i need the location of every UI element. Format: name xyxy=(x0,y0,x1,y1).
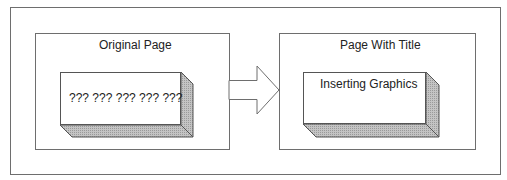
original-page-title: Original Page xyxy=(99,38,172,52)
page-with-title-title: Page With Title xyxy=(340,38,421,52)
original-page-block-text: ??? ??? ??? ??? ??? xyxy=(69,91,182,105)
diagram-canvas xyxy=(0,0,507,180)
page-with-title-block-text: Inserting Graphics xyxy=(320,77,417,91)
